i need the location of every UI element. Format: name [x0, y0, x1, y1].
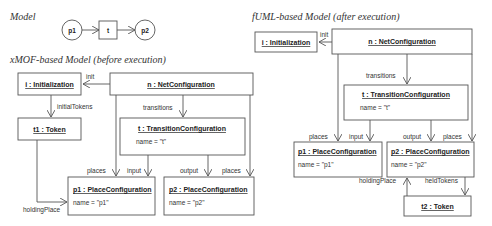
- object-net-label: n : NetConfiguration: [147, 81, 215, 89]
- f-object-transition-label: t : TransitionConfiguration: [362, 91, 450, 99]
- f-label-init: init: [320, 31, 329, 38]
- label-initialTokens: initialTokens: [57, 103, 93, 110]
- f-object-p1-label: p1 : PlaceConfiguration: [298, 148, 377, 156]
- petri-net: p1 t p2: [62, 20, 155, 40]
- object-p2-attr: name = "p2": [169, 199, 205, 207]
- object-transition: [120, 118, 245, 155]
- f-label-holdingPlace: holdingPlace: [359, 177, 397, 185]
- model-title: Model: [9, 11, 36, 22]
- object-p2: [164, 177, 254, 215]
- f-label-transitions: transitions: [366, 72, 396, 79]
- f-object-init-label: i : Initialization: [262, 39, 311, 46]
- f-object-p2-label: p2 : PlaceConfiguration: [391, 148, 470, 156]
- link-holdingPlace: [37, 140, 67, 202]
- f-label-input: input: [349, 133, 363, 141]
- label-input: input: [127, 167, 141, 175]
- object-p1-attr: name = "p1": [73, 199, 109, 207]
- f-label-output: output: [403, 133, 421, 141]
- object-transition-attr: name = "t": [136, 138, 167, 145]
- label-places-p2: places: [222, 167, 242, 175]
- label-places-p1: places: [87, 167, 107, 175]
- f-label-places-p1: places: [309, 133, 329, 141]
- label-transitions: transitions: [143, 104, 173, 111]
- fuml-title: fUML-based Model (after execution): [252, 11, 400, 23]
- object-p1: [68, 177, 155, 215]
- object-p1-label: p1 : PlaceConfiguration: [73, 186, 152, 194]
- label-init: init: [86, 73, 95, 80]
- object-p2-label: p2 : PlaceConfiguration: [169, 186, 248, 194]
- diagram-canvas: Model p1 t p2 xMOF-based Model (before e…: [0, 0, 492, 226]
- f-object-p2-attr: name = "p2": [391, 161, 427, 169]
- object-transition-label: t : TransitionConfiguration: [138, 125, 226, 133]
- fuml-diagram: i : Initialization n : NetConfiguration …: [255, 29, 474, 216]
- object-init-label: i : Initialization: [25, 81, 74, 88]
- place-p2-label: p2: [141, 27, 149, 35]
- f-label-places-p2: places: [443, 133, 463, 141]
- f-object-transition-attr: name = "t": [360, 104, 391, 111]
- label-output: output: [180, 167, 198, 175]
- f-object-net-label: n : NetConfiguration: [368, 38, 436, 46]
- f-label-heldTokens: heldTokens: [425, 177, 459, 184]
- xmof-title: xMOF-based Model (before execution): [9, 54, 167, 66]
- f-object-token-label: t2 : Token: [421, 203, 454, 210]
- xmof-diagram: i : Initialization n : NetConfiguration …: [18, 73, 254, 215]
- place-p1-label: p1: [68, 27, 76, 35]
- label-holdingPlace: holdingPlace: [23, 206, 61, 214]
- object-token-label: t1 : Token: [33, 126, 66, 133]
- f-object-p1-attr: name = "p1": [298, 161, 334, 169]
